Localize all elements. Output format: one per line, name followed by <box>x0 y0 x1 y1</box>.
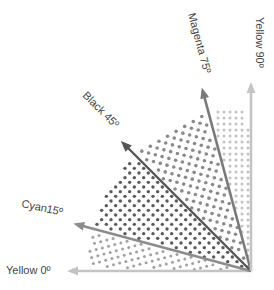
halftone-dot <box>217 111 220 114</box>
halftone-dot <box>106 265 109 268</box>
halftone-dot <box>92 262 95 265</box>
halftone-dot <box>184 237 187 240</box>
halftone-dot <box>179 213 182 216</box>
halftone-dot <box>241 123 244 126</box>
halftone-dot <box>123 185 126 188</box>
halftone-dot <box>247 195 250 198</box>
halftone-dot <box>189 155 193 159</box>
halftone-dot <box>119 199 122 202</box>
halftone-dot <box>241 135 244 138</box>
halftone-dot <box>198 223 201 226</box>
halftone-dot <box>96 254 99 257</box>
halftone-dot <box>161 195 164 198</box>
halftone-dot <box>168 179 172 183</box>
halftone-dot <box>212 205 216 209</box>
halftone-dot <box>235 141 238 144</box>
halftone-dot <box>172 165 176 169</box>
halftone-dot <box>124 260 127 263</box>
halftone-dot <box>161 241 164 244</box>
halftone-dot <box>219 207 223 211</box>
halftone-dot <box>219 178 223 182</box>
halftone-dot <box>109 251 112 254</box>
halftone-dot <box>200 144 204 148</box>
halftone-dot <box>197 260 200 263</box>
halftone-dot <box>223 129 226 132</box>
halftone-dot <box>121 248 124 251</box>
halftone-dot <box>147 209 150 212</box>
halftone-dot <box>119 181 122 184</box>
halftone-dot <box>172 136 176 140</box>
halftone-dot <box>189 223 192 226</box>
halftone-dot <box>115 249 118 252</box>
halftone-dot <box>128 199 131 202</box>
halftone-dot <box>241 195 244 198</box>
halftone-dot <box>147 181 150 184</box>
halftone-dot <box>151 232 154 235</box>
halftone-dot <box>175 199 178 202</box>
halftone-dot <box>191 262 194 265</box>
halftone-dot <box>196 157 200 161</box>
halftone-dot <box>231 217 235 221</box>
halftone-dot <box>133 176 136 179</box>
halftone-dot <box>142 176 145 179</box>
halftone-dot <box>113 243 116 246</box>
halftone-dot <box>133 185 136 188</box>
halftone-dot <box>226 260 229 263</box>
halftone-dot <box>235 123 238 126</box>
halftone-dot <box>204 210 208 214</box>
halftone-dot <box>179 265 182 268</box>
halftone-dot <box>208 139 212 143</box>
halftone-dot <box>225 237 229 241</box>
halftone-dot <box>151 176 154 179</box>
halftone-dot <box>211 183 215 187</box>
halftone-dot <box>223 153 226 156</box>
halftone-dot <box>165 218 168 221</box>
arrow-head-icon <box>73 222 85 231</box>
halftone-dot <box>165 199 168 202</box>
halftone-dot <box>186 169 190 173</box>
halftone-dot <box>175 218 178 221</box>
screen-angle-diagram: Yellow 0º Cyan15º Black 45º Magenta 75º … <box>0 0 274 290</box>
halftone-dot <box>207 196 211 200</box>
halftone-dot <box>185 264 188 267</box>
halftone-dot <box>175 181 179 185</box>
halftone-dot <box>241 207 244 210</box>
label-black-45: Black 45º <box>81 89 122 130</box>
halftone-dot <box>183 125 187 129</box>
halftone-dot <box>137 171 140 174</box>
halftone-dot <box>151 213 154 216</box>
halftone-dot <box>161 223 164 226</box>
halftone-dot <box>241 147 244 150</box>
halftone-dot <box>247 225 250 228</box>
halftone-dot <box>223 117 226 120</box>
halftone-dot <box>170 232 173 235</box>
halftone-dot <box>247 237 250 240</box>
halftone-dot <box>109 190 112 193</box>
halftone-dot <box>171 261 174 264</box>
halftone-dot <box>193 246 196 249</box>
halftone-dot <box>192 171 196 175</box>
halftone-dot <box>166 135 170 139</box>
halftone-dot <box>137 257 140 260</box>
halftone-dot <box>119 241 122 244</box>
halftone-dot <box>192 199 196 203</box>
halftone-dot <box>235 153 238 156</box>
halftone-dot <box>204 181 208 185</box>
halftone-dot <box>241 111 244 114</box>
halftone-dot <box>129 252 132 255</box>
halftone-dot <box>190 126 194 130</box>
halftone-dot <box>207 232 210 235</box>
halftone-dot <box>212 237 215 240</box>
halftone-dot <box>179 138 183 142</box>
halftone-dot <box>133 223 136 226</box>
halftone-dot <box>241 171 244 174</box>
halftone-dot <box>202 188 206 192</box>
halftone-dot <box>222 193 226 197</box>
halftone-dot <box>247 183 250 186</box>
halftone-dot <box>142 195 145 198</box>
halftone-dot <box>174 158 178 162</box>
halftone-dot <box>217 123 220 126</box>
halftone-dot <box>220 229 224 233</box>
halftone-dot <box>213 227 217 231</box>
halftone-dot <box>180 189 184 193</box>
